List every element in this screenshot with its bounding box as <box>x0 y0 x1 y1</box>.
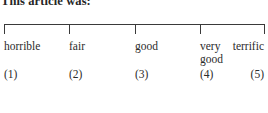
scale-number-5[interactable]: (5) <box>251 68 264 81</box>
scale-label-3[interactable]: good <box>135 40 158 53</box>
scale-tick-4 <box>200 24 201 34</box>
prompt-clip: This article was: <box>0 0 268 12</box>
page-title: This article was: <box>1 0 91 9</box>
scale-label-5[interactable]: terrific <box>233 40 264 53</box>
scale-number-1[interactable]: (1) <box>4 68 17 81</box>
scale-label-1[interactable]: horrible <box>4 40 40 53</box>
scale-tick-2 <box>69 24 70 34</box>
axis-line <box>4 24 264 25</box>
scale-labels-row: horriblefairgoodvery goodterrific <box>0 40 268 70</box>
scale-label-2[interactable]: fair <box>69 40 85 53</box>
scale-tick-1 <box>4 24 5 34</box>
scale-tick-3 <box>135 24 136 34</box>
scale-number-2[interactable]: (2) <box>69 68 82 81</box>
scale-numbers-row: (1)(2)(3)(4)(5) <box>0 68 268 84</box>
rating-scale-widget: This article was: horriblefairgoodvery g… <box>0 0 268 113</box>
scale-tick-5 <box>264 24 265 34</box>
scale-number-3[interactable]: (3) <box>135 68 148 81</box>
scale-label-4[interactable]: very good <box>200 40 223 66</box>
scale-axis <box>0 18 268 38</box>
scale-number-4[interactable]: (4) <box>200 68 213 81</box>
